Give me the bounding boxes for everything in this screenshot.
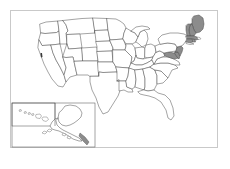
state-rhode-island[interactable]: [193, 39, 196, 42]
state-pennsylvania[interactable]: [155, 43, 177, 53]
state-south-dakota[interactable]: [95, 30, 110, 42]
map-figure: [0, 0, 230, 169]
state-oregon[interactable]: [39, 31, 60, 46]
state-wyoming[interactable]: [67, 34, 82, 49]
state-new-mexico[interactable]: [74, 61, 99, 77]
us-states-map[interactable]: [0, 0, 230, 169]
state-kansas[interactable]: [97, 51, 113, 62]
state-florida[interactable]: [138, 90, 174, 120]
state-texas[interactable]: [90, 72, 121, 114]
state-washington[interactable]: [40, 21, 59, 34]
state-colorado[interactable]: [82, 47, 98, 61]
state-montana[interactable]: [63, 18, 95, 35]
state-alaska[interactable]: [42, 105, 89, 145]
state-hawaii[interactable]: [19, 110, 49, 122]
state-georgia[interactable]: [143, 67, 157, 91]
